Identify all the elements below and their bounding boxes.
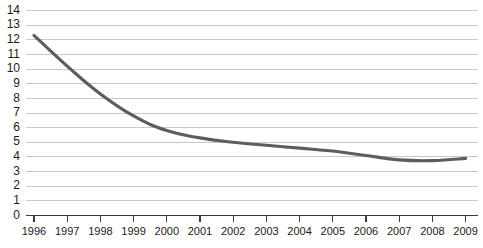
y-axis-tick-label: 3 bbox=[13, 164, 20, 178]
x-axis-tick-label: 2004 bbox=[287, 225, 311, 237]
line-chart: 01234567891011121314 1996199719981999200… bbox=[0, 0, 483, 248]
y-axis-tick-label: 12 bbox=[7, 32, 21, 46]
y-axis-tick-label: 5 bbox=[13, 134, 20, 148]
x-axis-tick-label: 1998 bbox=[88, 225, 112, 237]
y-axis-tick-label: 7 bbox=[13, 105, 20, 119]
y-axis-tick-labels: 01234567891011121314 bbox=[7, 3, 21, 222]
gridlines bbox=[26, 11, 478, 201]
y-axis-tick-label: 0 bbox=[13, 208, 20, 222]
x-axis-tick-label: 2005 bbox=[321, 225, 345, 237]
x-axis-tick-label: 2002 bbox=[221, 225, 245, 237]
y-axis-tick-label: 10 bbox=[7, 61, 21, 75]
y-axis-tick-label: 4 bbox=[13, 149, 20, 163]
y-axis-tick-label: 2 bbox=[13, 178, 20, 192]
x-axis-tick-labels: 1996199719981999200020012002200320042005… bbox=[22, 225, 478, 237]
x-axis-tick-label: 2008 bbox=[420, 225, 444, 237]
x-axis-tick-label: 2003 bbox=[254, 225, 278, 237]
y-axis-tick-label: 1 bbox=[13, 193, 20, 207]
x-axis-tick-label: 1996 bbox=[22, 225, 46, 237]
x-axis-tick-label: 2007 bbox=[387, 225, 411, 237]
y-axis-tick-label: 6 bbox=[13, 120, 20, 134]
y-axis-tick-label: 13 bbox=[7, 17, 21, 31]
y-axis-tick-label: 9 bbox=[13, 76, 20, 90]
chart-canvas: 01234567891011121314 1996199719981999200… bbox=[0, 0, 483, 248]
y-axis-tick-label: 11 bbox=[8, 47, 21, 61]
x-axis-tick-label: 2009 bbox=[453, 225, 477, 237]
x-axis-tick-label: 1997 bbox=[55, 225, 79, 237]
x-axis-tick-label: 2000 bbox=[155, 225, 179, 237]
x-axis-tick-label: 2006 bbox=[354, 225, 378, 237]
x-axis-tick-label: 2001 bbox=[188, 225, 212, 237]
x-axis-tick-marks bbox=[34, 216, 466, 222]
y-axis-tick-label: 8 bbox=[13, 91, 20, 105]
x-axis-tick-label: 1999 bbox=[121, 225, 145, 237]
y-axis-tick-label: 14 bbox=[7, 3, 21, 17]
